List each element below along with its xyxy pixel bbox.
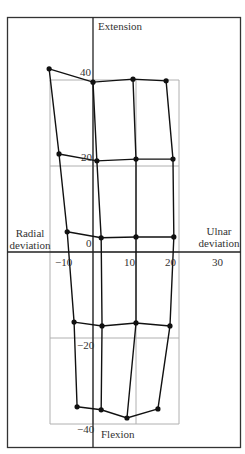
y-tick-neg40: −40: [77, 423, 94, 435]
data-point: [133, 234, 138, 239]
data-point: [130, 77, 135, 82]
data-point: [47, 66, 52, 71]
data-point: [164, 78, 169, 83]
mesh-row-line: [59, 154, 173, 161]
data-point: [171, 234, 176, 239]
data-point: [99, 323, 104, 328]
data-point: [56, 151, 61, 156]
y-tick-20: 20: [81, 151, 92, 163]
mesh-column-line: [127, 79, 136, 418]
y-tick-40: 40: [80, 66, 91, 78]
mesh-row-line: [74, 322, 170, 326]
data-point: [124, 415, 129, 420]
data-point: [170, 157, 175, 162]
data-point: [167, 323, 172, 328]
data-point: [74, 404, 79, 409]
x-tick-30: 30: [212, 256, 223, 268]
data-points: [47, 66, 177, 420]
radial-label-line1: Radial: [9, 227, 51, 239]
radial-deviation-label: Radial deviation: [9, 227, 51, 251]
flexion-label: Flexion: [101, 428, 135, 440]
mesh-column-line: [49, 69, 77, 407]
ulnar-label-line1: Ulnar: [197, 225, 241, 237]
x-tick-10: 10: [124, 256, 135, 268]
data-point: [133, 157, 138, 162]
ulnar-label-line2: deviation: [197, 237, 241, 249]
y-tick-0: 0: [86, 237, 92, 249]
mesh-row-line: [77, 407, 158, 418]
mesh-column-line: [158, 81, 174, 409]
ulnar-deviation-label: Ulnar deviation: [197, 225, 241, 249]
data-point: [155, 406, 160, 411]
data-point: [90, 80, 95, 85]
data-point: [71, 319, 76, 324]
x-tick-neg10: −10: [55, 256, 72, 268]
data-point: [99, 407, 104, 412]
data-mesh: [49, 69, 174, 418]
y-tick-neg20: −20: [77, 339, 94, 351]
data-point: [99, 235, 104, 240]
data-point: [65, 229, 70, 234]
radial-label-line2: deviation: [9, 239, 51, 251]
extension-label: Extension: [98, 20, 142, 32]
data-point: [94, 158, 99, 163]
mesh-row-line: [67, 232, 174, 238]
data-point: [133, 320, 138, 325]
x-tick-20: 20: [165, 256, 176, 268]
mesh-column-line: [93, 82, 102, 410]
